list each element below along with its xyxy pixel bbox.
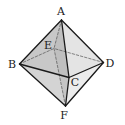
label-d: D xyxy=(106,57,115,70)
label-f: F xyxy=(60,109,68,122)
label-b: B xyxy=(8,58,16,71)
octahedron-diagram: A E B D C F xyxy=(0,0,125,125)
label-a: A xyxy=(56,5,66,18)
label-e: E xyxy=(44,39,52,52)
octahedron-figure: A E B D C F xyxy=(0,0,125,125)
label-c: C xyxy=(71,76,79,89)
